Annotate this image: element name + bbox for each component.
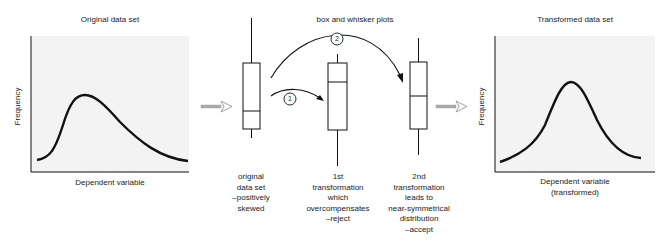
right-x-axis-label-line1: Dependent variable <box>495 177 655 188</box>
hollow-arrow-right <box>436 101 467 112</box>
right-y-axis-label: Frequency <box>477 82 486 132</box>
caption-line: original <box>216 172 286 183</box>
caption-line: near-symmetrical <box>377 204 461 215</box>
arrow-step-1 <box>271 89 324 101</box>
caption-line: –accept <box>377 225 461 236</box>
caption-line: 1st <box>297 172 379 183</box>
box-plot-2nd-transformation <box>410 38 427 155</box>
step-2-number: 2 <box>331 34 343 44</box>
box-plots-title: box and whisker plots <box>280 15 430 26</box>
caption-line: distribution <box>377 214 461 225</box>
left-y-axis-label: Frequency <box>13 82 22 132</box>
left-panel-title: Original data set <box>31 15 189 26</box>
left-x-axis-label: Dependent variable <box>31 178 189 189</box>
box-plot-1st-transformation <box>328 54 347 166</box>
caption-line: which <box>297 193 379 204</box>
caption-line: –reject <box>297 214 379 225</box>
caption-line: transformation <box>377 183 461 194</box>
hollow-arrow-left <box>201 101 232 112</box>
caption-line: data set <box>216 183 286 194</box>
right-plot-area <box>495 36 655 172</box>
caption-2nd-transformation: 2nd transformation leads to near-symmetr… <box>377 172 461 236</box>
right-panel-title: Transformed data set <box>495 15 655 26</box>
caption-line: leads to <box>377 193 461 204</box>
step-1-number: 1 <box>284 94 296 104</box>
caption-1st-transformation: 1st transformation which overcompensates… <box>297 172 379 225</box>
caption-line: skewed <box>216 204 286 215</box>
caption-line: –positively <box>216 193 286 204</box>
right-x-axis-label-line2: (transformed) <box>495 188 655 199</box>
caption-line: overcompensates <box>297 204 379 215</box>
caption-original: original data set –positively skewed <box>216 172 286 214</box>
caption-line: transformation <box>297 183 379 194</box>
left-plot-area <box>31 36 189 172</box>
right-x-axis-label: Dependent variable (transformed) <box>495 177 655 198</box>
caption-line: 2nd <box>377 172 461 183</box>
box-plot-original <box>243 18 260 138</box>
